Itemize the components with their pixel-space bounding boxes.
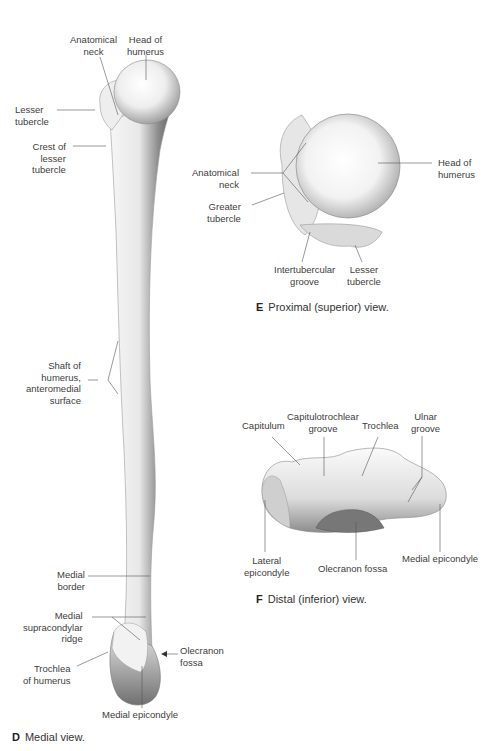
caption-e: EProximal (superior) view.: [256, 301, 389, 313]
caption-f: FDistal (inferior) view.: [256, 593, 367, 605]
caption-f-text: Distal (inferior) view.: [268, 593, 367, 605]
arrow-icon: [161, 651, 167, 657]
label-f-medial-epicondyle: Medial epicondyle: [402, 553, 478, 565]
caption-d: DMedial view.: [12, 731, 85, 743]
label-f-lateral-epicondyle: Lateral epicondyle: [244, 555, 289, 578]
caption-e-text: Proximal (superior) view.: [268, 301, 388, 313]
label-e-intertubercular-groove: Intertubercular groove: [274, 264, 335, 287]
caption-f-letter: F: [256, 593, 263, 605]
label-d-trochlea-of-humerus: Trochlea of humerus: [23, 663, 71, 686]
label-f-ulnar-groove: Ulnar groove: [411, 411, 440, 434]
label-d-medial-border: Medial border: [57, 569, 85, 592]
label-d-shaft: Shaft of humerus, anteromedial surface: [26, 360, 81, 406]
label-d-crest-of-lesser-tubercle: Crest of lesser tubercle: [32, 141, 66, 176]
label-e-head-of-humerus: Head of humerus: [438, 157, 475, 180]
caption-d-letter: D: [12, 731, 20, 743]
label-f-olecranon-fossa: Olecranon fossa: [318, 563, 387, 575]
label-e-lesser-tubercle: Lesser tubercle: [347, 264, 381, 287]
label-e-anatomical-neck: Anatomical neck: [192, 167, 239, 190]
caption-d-text: Medial view.: [25, 731, 85, 743]
label-d-medial-epicondyle: Medial epicondyle: [102, 709, 178, 721]
caption-e-letter: E: [256, 301, 263, 313]
figure-f-humerus-distal: [262, 448, 446, 532]
label-d-medial-supracondylar-ridge: Medial supracondylar ridge: [23, 610, 83, 645]
figure-e-humerus-proximal: [280, 114, 400, 247]
figure-d-humerus-medial: [100, 60, 180, 705]
label-d-anatomical-neck: Anatomical neck: [70, 34, 117, 57]
label-f-capitulum: Capitulum: [242, 420, 285, 432]
label-f-capitulotrochlear-groove: Capitulotrochlear groove: [287, 411, 359, 434]
label-e-greater-tubercle: Greater tubercle: [207, 201, 241, 224]
label-f-trochlea: Trochlea: [362, 420, 399, 432]
label-d-olecranon-fossa: Olecranon fossa: [180, 645, 224, 668]
label-d-head-of-humerus: Head of humerus: [127, 34, 164, 57]
label-d-lesser-tubercle: Lesser tubercle: [15, 104, 49, 127]
